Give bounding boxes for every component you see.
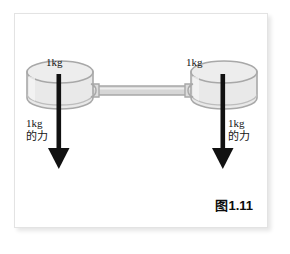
force-label-right-unit-text: 的力 — [228, 130, 250, 143]
weight-left — [27, 61, 99, 109]
force-arrow-left-head — [48, 148, 70, 169]
figure-panel: 1kg 1kg 1kg 的力 1kg 的力 图1.11 — [14, 13, 268, 228]
force-arrow-right-head — [212, 148, 234, 169]
force-label-left-value: 1kg — [26, 117, 48, 130]
force-label-right-value: 1kg — [228, 117, 250, 130]
mass-label-right: 1kg — [186, 56, 203, 68]
figure-root: 1kg 1kg 1kg 的力 1kg 的力 图1.11 — [0, 0, 290, 254]
force-arrow-right-shaft — [221, 74, 226, 152]
figure-caption: 图1.11 — [215, 195, 253, 214]
mass-label-left: 1kg — [46, 56, 63, 68]
force-arrow-left-shaft — [57, 74, 62, 152]
cylinder-shade-left — [29, 76, 35, 101]
force-label-left-unit-text: 的力 — [26, 130, 48, 143]
cylinder-shade-right — [193, 76, 199, 101]
force-label-right: 1kg 的力 — [228, 117, 250, 142]
force-label-left: 1kg 的力 — [26, 117, 48, 142]
